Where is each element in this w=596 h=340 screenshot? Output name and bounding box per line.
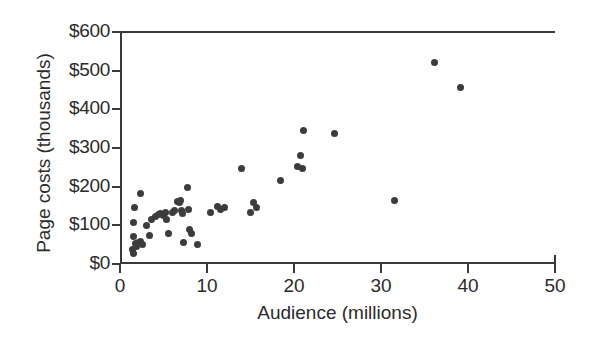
data-point xyxy=(253,204,260,211)
y-axis-tick-label: $100 xyxy=(2,213,110,235)
x-axis-tick-label: 30 xyxy=(351,275,411,297)
x-axis-tick xyxy=(206,263,208,273)
data-point xyxy=(300,127,307,134)
data-point xyxy=(177,197,184,204)
y-axis-tick-label: $600 xyxy=(2,20,110,42)
x-axis-tick-label: 50 xyxy=(525,275,585,297)
y-axis-tick-label: $200 xyxy=(2,175,110,197)
x-axis-tick xyxy=(467,263,469,273)
y-axis-title: Page costs (thousands) xyxy=(33,13,55,293)
y-axis-tick xyxy=(112,31,121,33)
data-point xyxy=(165,230,172,237)
x-axis-title: Audience (millions) xyxy=(120,302,555,324)
x-axis-tick xyxy=(119,263,121,273)
x-axis-tick xyxy=(293,263,295,273)
y-axis-tick-label: $0 xyxy=(2,252,110,274)
y-axis-tick xyxy=(112,224,121,226)
data-point xyxy=(162,209,169,216)
y-axis-tick xyxy=(112,186,121,188)
scatter-plot-figure: $0$100$200$300$400$500$600 01020304050 A… xyxy=(0,0,596,340)
data-point xyxy=(431,59,438,66)
data-point xyxy=(221,204,228,211)
y-axis-tick-label: $500 xyxy=(2,59,110,81)
x-axis-tick-label: 20 xyxy=(264,275,324,297)
x-axis-tick xyxy=(554,263,556,273)
y-axis-tick-label: $300 xyxy=(2,136,110,158)
x-axis-tick-label: 0 xyxy=(90,275,150,297)
data-point xyxy=(194,241,201,248)
data-point xyxy=(130,250,137,257)
y-axis-tick xyxy=(112,108,121,110)
data-point xyxy=(247,209,254,216)
data-point xyxy=(457,84,464,91)
data-point xyxy=(130,233,137,240)
data-point xyxy=(188,230,195,237)
y-axis-tick xyxy=(112,70,121,72)
y-axis-tick xyxy=(112,147,121,149)
x-axis-tick xyxy=(380,263,382,273)
x-axis-tick-label: 40 xyxy=(438,275,498,297)
y-axis-tick-label: $400 xyxy=(2,97,110,119)
x-axis-tick-label: 10 xyxy=(177,275,237,297)
